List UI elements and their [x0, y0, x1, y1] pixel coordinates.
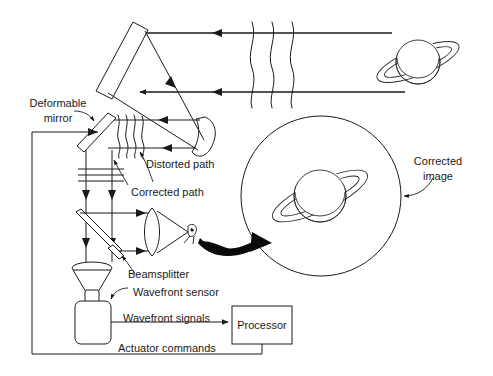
incoming-light-rays — [140, 29, 405, 96]
sensor-funnel — [72, 262, 112, 302]
corrected-wavefronts-flat — [78, 169, 124, 181]
label-wavefront-signals: Wavefront signals — [123, 312, 211, 324]
eye — [184, 224, 196, 244]
label-distorted-path: Distorted path — [146, 158, 214, 170]
wavefront-sensor-body — [75, 301, 111, 344]
label-actuator-commands: Actuator commands — [118, 342, 216, 354]
distorted-wavefronts-incoming — [250, 22, 294, 108]
label-wavefront-sensor: Wavefront sensor — [133, 286, 219, 298]
diagram-canvas: Deformable mirror Distorted path Correct… — [0, 0, 493, 376]
label-corrected-image-line1: Corrected — [414, 155, 462, 167]
secondary-mirror — [192, 117, 215, 156]
label-deformable-mirror-line2: mirror — [44, 112, 73, 124]
corrected-image-circle — [241, 116, 401, 276]
label-corrected-path: Corrected path — [131, 186, 204, 198]
label-processor: Processor — [237, 319, 287, 331]
label-beamsplitter: Beamsplitter — [128, 268, 189, 280]
primary-mirror — [96, 22, 148, 99]
adaptive-optics-diagram: Deformable mirror Distorted path Correct… — [0, 0, 493, 376]
source-planet — [372, 33, 463, 90]
label-corrected-image-line2: image — [423, 170, 453, 182]
imaging-lens — [145, 208, 160, 256]
label-deformable-mirror-line1: Deformable — [30, 97, 87, 109]
